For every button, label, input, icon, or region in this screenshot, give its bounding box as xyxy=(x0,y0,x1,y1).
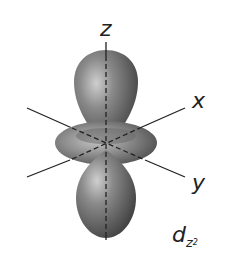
orbital-subscript-text: z xyxy=(186,235,193,250)
x-axis-label: x xyxy=(192,88,205,113)
y-axis-label: y xyxy=(192,170,205,195)
z-axis-label: z xyxy=(100,16,112,41)
x-axis-front xyxy=(27,160,70,177)
y-axis-front xyxy=(145,160,185,177)
orbital-label-main: d xyxy=(172,222,186,247)
orbital-label-subscript: z2 xyxy=(186,235,198,250)
y-axis-back xyxy=(142,108,185,127)
dz2-orbital-diagram xyxy=(0,0,226,253)
x-axis-back xyxy=(27,108,72,128)
orbital-label: dz2 xyxy=(172,222,198,247)
orbital-label-superscript: 2 xyxy=(193,238,198,247)
